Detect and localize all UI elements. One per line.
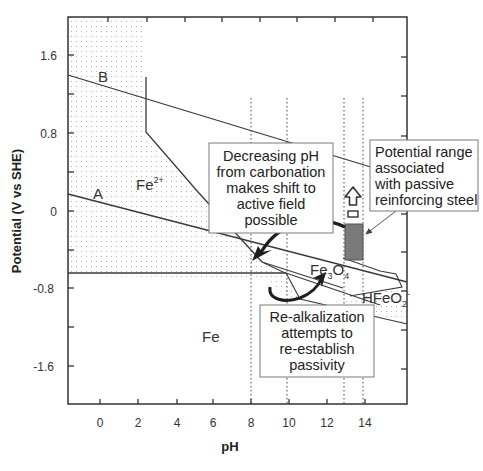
y-tick-label: -0.8 bbox=[33, 282, 54, 296]
line-a-label: A bbox=[93, 185, 103, 202]
x-axis-title: pH bbox=[221, 439, 238, 454]
callout-line: from carbonation bbox=[217, 164, 326, 180]
realkalization-callout: Re-alkalization attempts to re-establish… bbox=[260, 305, 374, 377]
x-tick-labels: 0 2 4 6 8 10 12 14 bbox=[97, 416, 372, 430]
callout-line: Potential range bbox=[375, 144, 473, 160]
y-tick-labels: 1.6 0.8 0 -0.8 -1.6 bbox=[33, 49, 57, 374]
x-tick-label: 2 bbox=[135, 416, 142, 430]
callout-line: associated bbox=[375, 160, 444, 176]
passive-callout-pointer bbox=[366, 211, 396, 234]
x-tick-label: 14 bbox=[358, 416, 372, 430]
x-tick-label: 10 bbox=[282, 416, 296, 430]
callout-line: attempts to bbox=[281, 325, 353, 341]
x-tick-label: 12 bbox=[320, 416, 334, 430]
y-axis-title: Potential (V vs SHE) bbox=[9, 149, 24, 273]
carbonation-callout: Decreasing pH from carbonation makes shi… bbox=[209, 143, 333, 233]
callout-line: active field bbox=[237, 196, 306, 212]
callout-line: Re-alkalization bbox=[269, 309, 364, 325]
x-tick-label: 6 bbox=[210, 416, 217, 430]
passive-potential-box bbox=[345, 224, 363, 260]
up-arrow-icon bbox=[345, 187, 361, 205]
small-marker-rect bbox=[348, 211, 358, 217]
callout-line: with passive bbox=[374, 176, 454, 192]
callout-line: passivity bbox=[289, 357, 345, 373]
pourbaix-diagram: 0 2 4 6 8 10 12 14 1.6 0.8 0 -0.8 -1.6 p… bbox=[0, 0, 483, 471]
line-b-label: B bbox=[98, 68, 108, 85]
y-tick-label: 1.6 bbox=[40, 49, 57, 63]
x-tick-label: 8 bbox=[248, 416, 255, 430]
x-tick-label: 4 bbox=[174, 416, 181, 430]
callout-line: re-establish bbox=[280, 341, 355, 357]
y-tick-label: 0.8 bbox=[40, 127, 57, 141]
fe-label: Fe bbox=[202, 328, 220, 345]
y-tick-label: 0 bbox=[50, 205, 57, 219]
callout-line: reinforcing steel bbox=[375, 192, 477, 208]
callout-line: makes shift to bbox=[226, 180, 315, 196]
y-tick-label: -1.6 bbox=[33, 360, 54, 374]
callout-line: Decreasing pH bbox=[223, 148, 319, 164]
callout-line: possible bbox=[244, 212, 297, 228]
passive-range-callout: Potential range associated with passive … bbox=[370, 140, 478, 211]
x-tick-label: 0 bbox=[97, 416, 104, 430]
